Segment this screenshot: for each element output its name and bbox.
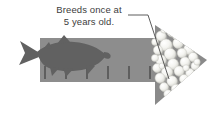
egg (177, 48, 187, 58)
egg (194, 59, 200, 65)
egg (155, 73, 165, 83)
egg (183, 65, 189, 71)
diagram-canvas: Breeds once at 5 years old. (0, 0, 219, 116)
salmon-timeline-figure (0, 0, 219, 116)
egg (151, 54, 158, 61)
